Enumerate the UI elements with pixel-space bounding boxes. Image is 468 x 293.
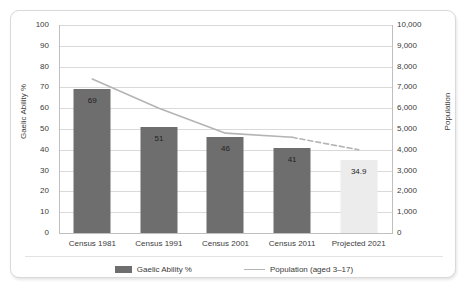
y2-axis-tick-label: 8,000 xyxy=(397,63,417,71)
y2-axis-tick-label: 2,000 xyxy=(397,187,417,195)
legend-item[interactable]: Gaelic Ability % xyxy=(115,265,192,274)
bar-series: 6951464134.9 xyxy=(59,25,392,233)
y2-axis-line xyxy=(392,25,393,234)
bar[interactable] xyxy=(74,89,111,233)
bar-value-label: 51 xyxy=(154,134,163,143)
legend-label: Population (aged 3–17) xyxy=(270,265,353,274)
y-axis-tick-label: 90 xyxy=(40,42,49,50)
bar-value-label: 69 xyxy=(88,96,97,105)
y2-axis-tick-label: 4,000 xyxy=(397,146,417,154)
y2-axis-tick-label: 7,000 xyxy=(397,83,417,91)
bar-slot: 46 xyxy=(192,25,259,233)
bar-slot: 41 xyxy=(259,25,326,233)
bar-slot: 69 xyxy=(59,25,126,233)
y-axis-tick-label: 50 xyxy=(40,125,49,133)
y-axis-tick-label: 60 xyxy=(40,104,49,112)
bar-value-label: 34.9 xyxy=(351,167,367,176)
y2-axis-ticks: 10,0009,0008,0007,0006,0005,0004,0003,00… xyxy=(397,25,443,233)
x-axis-labels: Census 1981Census 1991Census 2001Census … xyxy=(59,239,392,253)
legend-item[interactable]: Population (aged 3–17) xyxy=(244,265,353,274)
legend-label: Gaelic Ability % xyxy=(137,265,192,274)
bar-value-label: 41 xyxy=(288,155,297,164)
bar-value-label: 46 xyxy=(221,144,230,153)
x-axis-category-label: Census 1991 xyxy=(126,239,193,248)
y2-axis-tick-label: 10,000 xyxy=(397,21,421,29)
y-axis-tick-label: 0 xyxy=(45,229,49,237)
gridline xyxy=(59,233,392,234)
bar-slot: 51 xyxy=(126,25,193,233)
y-axis-tick-label: 80 xyxy=(40,63,49,71)
x-axis-category-label: Projected 2021 xyxy=(325,239,392,248)
legend-bar-swatch-icon xyxy=(115,266,132,273)
y2-axis-tick-label: 9,000 xyxy=(397,42,417,50)
chart-frame: 1009080706050403020100 10,0009,0008,0007… xyxy=(10,10,456,278)
x-axis-category-label: Census 2001 xyxy=(192,239,259,248)
y-axis-tick-label: 20 xyxy=(40,187,49,195)
y-axis-tick-label: 70 xyxy=(40,83,49,91)
chart-legend: Gaelic Ability %Population (aged 3–17) xyxy=(11,261,457,277)
y2-axis-tick-label: 5,000 xyxy=(397,125,417,133)
x-axis-category-label: Census 2011 xyxy=(259,239,326,248)
legend-separator xyxy=(25,256,443,257)
y-axis-tick-label: 30 xyxy=(40,167,49,175)
y2-axis-tick-label: 0 xyxy=(397,229,401,237)
y2-axis-tick-label: 1,000 xyxy=(397,208,417,216)
legend-line-swatch-icon xyxy=(244,269,265,270)
y-axis-tick-label: 10 xyxy=(40,208,49,216)
x-axis-category-label: Census 1981 xyxy=(59,239,126,248)
y-axis-tick-label: 100 xyxy=(36,21,49,29)
y2-axis-tick-label: 6,000 xyxy=(397,104,417,112)
y2-axis-tick-label: 3,000 xyxy=(397,167,417,175)
y-axis-title: Gaelic Ability % xyxy=(19,72,28,152)
bar-slot: 34.9 xyxy=(325,25,392,233)
y-axis-tick-label: 40 xyxy=(40,146,49,154)
y2-axis-title: Population xyxy=(443,72,452,152)
